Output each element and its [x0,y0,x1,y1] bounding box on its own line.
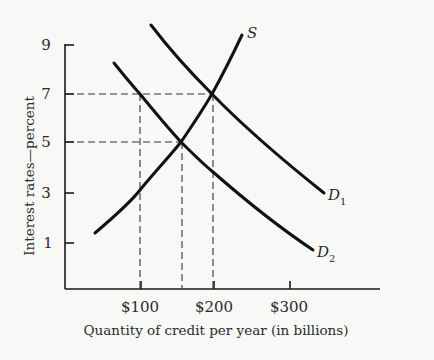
demand-curve-d1 [151,25,324,193]
d1-label-letter: D [327,186,340,204]
d2-label: D 2 [316,243,335,264]
x-tick-label-100: $100 [121,298,159,316]
d1-label: D 1 [327,186,346,207]
y-tick-label-1: 1 [43,234,53,252]
x-tick-label-200: $200 [195,298,233,316]
y-axis-title: Interest rates—percent [21,96,37,256]
d1-label-subscript: 1 [340,196,346,207]
curves [95,25,324,250]
x-axis-title: Quantity of credit per year (in billions… [84,322,349,338]
x-ticks: $100 $200 $300 [121,281,308,316]
supply-demand-credit-chart: 9 7 5 3 1 $100 $200 $300 Quantity of cre… [0,0,434,360]
d2-label-letter: D [316,243,329,261]
y-tick-label-9: 9 [41,36,51,54]
x-tick-label-300: $300 [270,298,308,316]
y-tick-label-5: 5 [41,133,51,151]
y-tick-label-7: 7 [41,85,51,103]
y-tick-label-3: 3 [41,184,51,202]
supply-label: S [247,24,257,42]
d2-label-subscript: 2 [329,253,335,264]
y-ticks: 9 7 5 3 1 [41,36,74,252]
